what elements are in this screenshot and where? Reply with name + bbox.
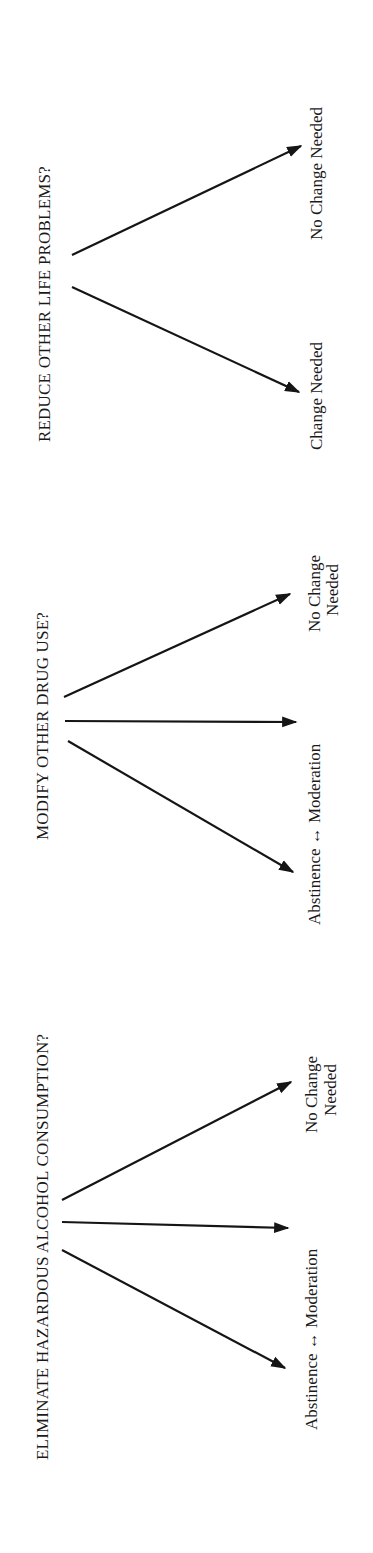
drug-label-no-change-line2: Needed [323, 564, 342, 616]
drug-label-no-change-line1: No Change [305, 555, 324, 632]
decision-diagram: ELIMINATE HAZARDOUS ALCOHOL CONSUMPTION?… [0, 0, 373, 1553]
alcohol-label-no-change-line2: Needed [321, 1064, 340, 1116]
life-arrow-change [72, 287, 299, 392]
section-life: REDUCE OTHER LIFE PROBLEMS? Change Neede… [35, 106, 326, 450]
alcohol-label-range: Abstinence ↔ Moderation [302, 1248, 321, 1430]
alcohol-arrow-moderation [62, 1222, 288, 1228]
drug-title: MODIFY OTHER DRUG USE? [33, 612, 52, 840]
drug-arrow-moderation [65, 721, 296, 722]
life-arrow-no-change [72, 146, 301, 255]
life-title: REDUCE OTHER LIFE PROBLEMS? [35, 166, 54, 442]
drug-arrow-abstinence [68, 741, 293, 872]
drug-arrow-no-change [64, 594, 290, 697]
life-label-no-change: No Change Needed [307, 106, 326, 240]
drug-label-range: Abstinence ↔ Moderation [305, 743, 324, 925]
section-alcohol: ELIMINATE HAZARDOUS ALCOHOL CONSUMPTION?… [33, 1034, 340, 1460]
alcohol-label-no-change-line1: No Change [302, 1056, 321, 1133]
alcohol-arrow-no-change [62, 1082, 291, 1200]
alcohol-arrow-abstinence [62, 1250, 285, 1368]
alcohol-title: ELIMINATE HAZARDOUS ALCOHOL CONSUMPTION? [33, 1034, 52, 1460]
life-label-change: Change Needed [307, 341, 326, 450]
section-drug: MODIFY OTHER DRUG USE? Abstinence ↔ Mode… [33, 555, 342, 925]
